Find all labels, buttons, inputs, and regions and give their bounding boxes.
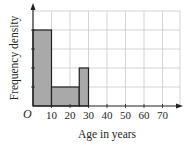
x-tick-label: 20: [65, 109, 77, 121]
x-tick-labels: 10203040506070: [46, 109, 169, 121]
x-axis-title: Age in years: [78, 128, 137, 141]
x-tick-label: 70: [157, 109, 169, 121]
y-axis-title: Frequency density: [8, 15, 21, 100]
histogram-chart: 10203040506070 O Age in years Frequency …: [0, 0, 191, 151]
x-tick-label: 40: [102, 109, 114, 121]
x-tick-label: 60: [139, 109, 151, 121]
origin-label: O: [23, 107, 32, 121]
histogram-bar: [52, 87, 80, 106]
y-axis-arrow-icon: [31, 3, 36, 10]
x-tick-label: 30: [83, 109, 95, 121]
histogram-bar: [33, 30, 52, 106]
histogram-bar: [79, 68, 88, 106]
x-tick-label: 50: [120, 109, 132, 121]
x-axis-arrow-icon: [176, 104, 183, 109]
x-tick-label: 10: [46, 109, 58, 121]
